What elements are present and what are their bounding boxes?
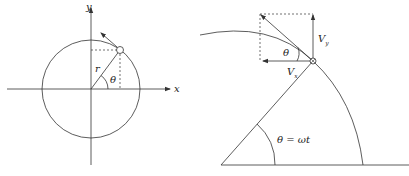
angle-arc: [101, 76, 108, 90]
theta-arc: [297, 48, 299, 62]
radius-line: [221, 61, 313, 165]
angle-label: θ: [110, 74, 116, 85]
omega-angle-arc: [257, 124, 275, 165]
omega-t-label: θ = ωt: [277, 134, 311, 145]
radius-label: r: [95, 63, 101, 74]
left-figure: x y r θ: [7, 1, 180, 165]
vx-label: Vx: [287, 66, 298, 79]
x-axis-label: x: [174, 83, 180, 94]
right-figure: Vy Vx θ θ = ωt: [200, 14, 409, 165]
circular-motion-diagram: x y r θ Vy Vx θ θ = ωt: [0, 0, 409, 176]
velocity-arrow: [101, 33, 117, 47]
theta-label: θ: [283, 47, 289, 58]
particle: [117, 47, 124, 54]
y-axis-label: y: [85, 1, 92, 12]
vy-label: Vy: [318, 33, 329, 47]
